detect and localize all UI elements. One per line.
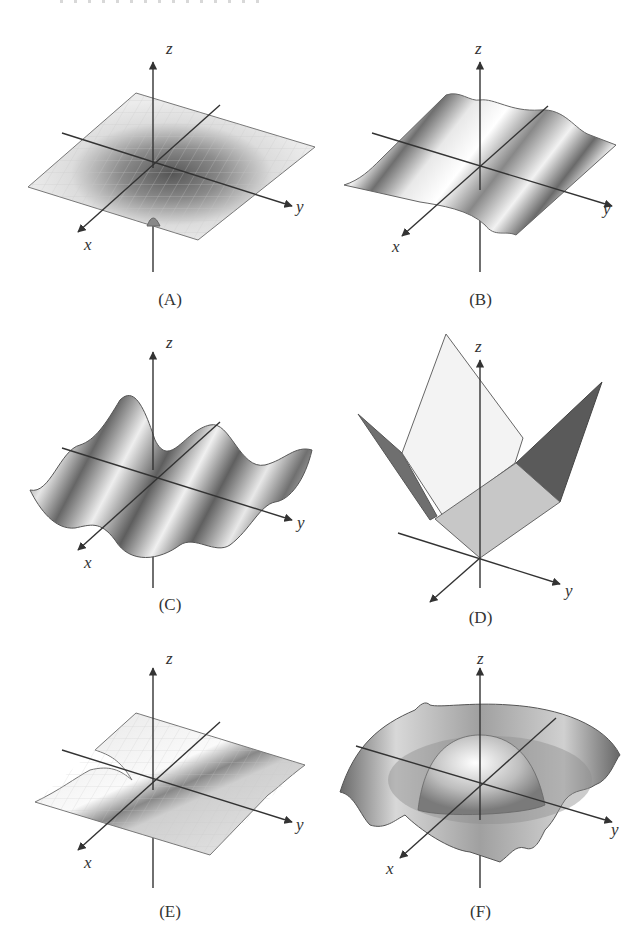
y-axis-label: y xyxy=(609,820,619,839)
surface-plot-c: z y x xyxy=(20,330,320,590)
y-axis-label: y xyxy=(563,581,573,600)
z-axis-label: z xyxy=(165,649,173,668)
panel-d: z y x (D) xyxy=(320,330,641,620)
panel-b: z y x (B) xyxy=(320,40,641,320)
cropped-text-line xyxy=(60,0,260,3)
y-axis-label: y xyxy=(294,815,304,834)
x-axis-label: x xyxy=(83,553,92,572)
x-axis-label: x xyxy=(83,853,92,872)
z-axis-label: z xyxy=(476,649,484,668)
z-axis-label: z xyxy=(474,337,482,356)
panel-c: z y x (C) xyxy=(20,330,320,610)
panel-caption: (A) xyxy=(20,290,320,310)
y-axis-label: y xyxy=(601,199,611,218)
panel-caption: (B) xyxy=(320,290,641,310)
surface-plot-d: z y x xyxy=(320,330,641,605)
panel-caption: (D) xyxy=(320,608,641,628)
x-axis-label: x xyxy=(391,237,400,256)
y-axis-label: y xyxy=(295,513,305,532)
y-axis-label: y xyxy=(294,197,304,216)
surface-plot-b: z y x xyxy=(320,40,641,290)
z-axis-label: z xyxy=(165,333,173,352)
surface-plot-a: z y x xyxy=(20,40,320,290)
surface-plot-e: z y x xyxy=(20,630,320,900)
x-axis xyxy=(430,558,480,602)
x-axis-label: x xyxy=(419,603,428,605)
x-axis-label: x xyxy=(83,235,92,254)
panel-a: z y x (A) xyxy=(20,40,320,320)
surface-sheet xyxy=(30,396,312,558)
panel-e: z y x (E) xyxy=(20,630,320,939)
panel-caption: (C) xyxy=(20,595,320,615)
z-axis-label: z xyxy=(165,40,173,58)
x-axis-label: x xyxy=(385,859,394,878)
surface-plot-f: z y x xyxy=(320,630,641,900)
panel-f: z y x (F) xyxy=(320,630,641,939)
panel-caption: (F) xyxy=(320,902,641,922)
z-axis-label: z xyxy=(474,40,482,58)
panel-caption: (E) xyxy=(20,902,320,922)
